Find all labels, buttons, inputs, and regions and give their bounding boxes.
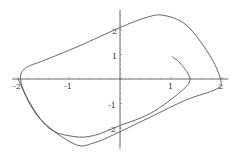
- y-axis: [120, 10, 122, 149]
- y-tick-label: 2: [112, 27, 117, 36]
- x-tick-label: -1: [64, 82, 72, 91]
- phase-plot: -2 -1 1 2 2 1 -1 -2: [0, 0, 230, 157]
- y-tick-label: 1: [112, 52, 117, 61]
- x-tick-label: 1: [168, 82, 173, 91]
- y-tick-label: -1: [108, 101, 116, 110]
- y-tick-label: -2: [108, 125, 116, 134]
